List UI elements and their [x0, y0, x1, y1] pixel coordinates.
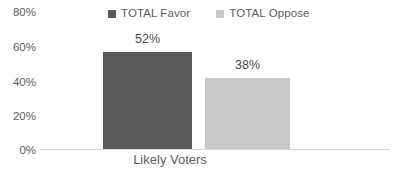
bar-value-label-favor: 52% — [135, 33, 160, 46]
bar-value-label-oppose: 38% — [235, 59, 260, 72]
y-axis-tick-20: 20% — [0, 111, 36, 123]
y-axis-tick-0: 0% — [0, 145, 36, 157]
bar-total-oppose[interactable]: 38% — [205, 78, 290, 149]
y-axis-tick-80: 80% — [0, 7, 36, 19]
y-axis-tick-40: 40% — [0, 77, 36, 89]
x-axis-category-label: Likely Voters — [40, 152, 300, 168]
bar-total-favor[interactable]: 52% — [103, 52, 192, 149]
bar-chart: TOTAL Favor TOTAL Oppose 80% 60% 40% 20%… — [0, 0, 401, 173]
x-axis-line — [40, 149, 390, 150]
y-axis-tick-60: 60% — [0, 42, 36, 54]
plot-area: 52% 38% — [40, 0, 390, 149]
